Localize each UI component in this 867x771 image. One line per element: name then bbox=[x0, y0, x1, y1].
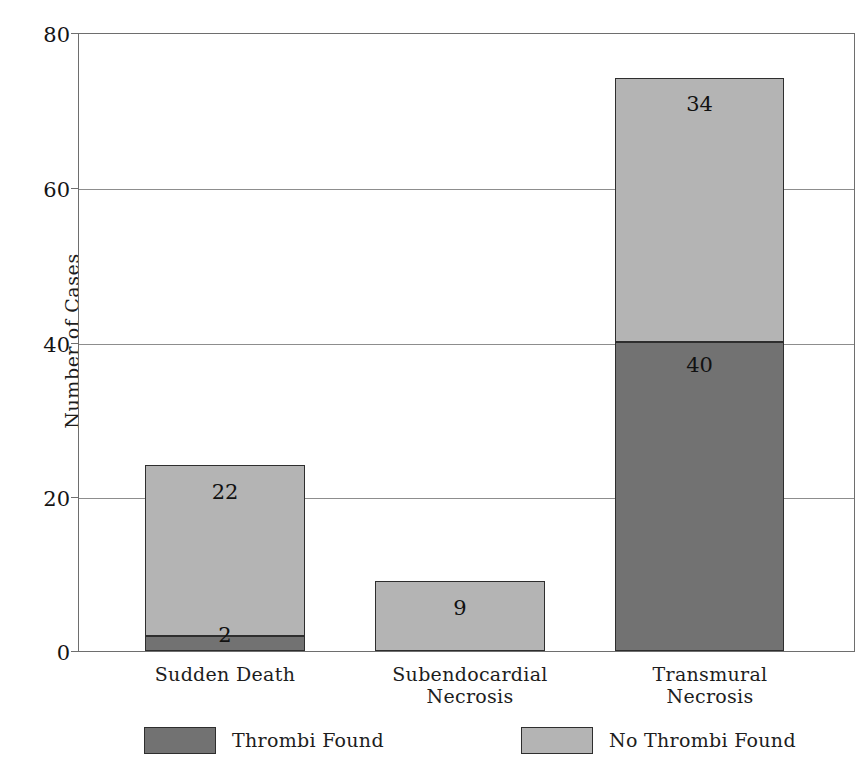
bar-transmural-necrosis[interactable]: 34 40 bbox=[615, 78, 784, 651]
x-category-line-1: Sudden Death bbox=[105, 663, 345, 685]
bar-subendocardial-necrosis[interactable]: 9 bbox=[375, 581, 545, 651]
chart-legend: Thrombi Found No Thrombi Found bbox=[0, 718, 867, 760]
plot-area: 22 2 9 34 40 bbox=[78, 33, 855, 652]
bar-sudden-death[interactable]: 22 2 bbox=[145, 465, 305, 651]
legend-entry-no-thrombi-found[interactable]: No Thrombi Found bbox=[521, 723, 796, 757]
y-tick-mark-60 bbox=[71, 188, 78, 189]
bar-segment-thrombi-found[interactable] bbox=[615, 342, 784, 652]
y-tick-label-60: 60 bbox=[10, 180, 70, 201]
bar-segment-thrombi-found[interactable] bbox=[145, 636, 305, 652]
y-tick-mark-80 bbox=[71, 33, 78, 34]
y-tick-mark-40 bbox=[71, 343, 78, 344]
y-tick-label-40: 40 bbox=[10, 335, 70, 356]
x-category-label-sudden-death: Sudden Death bbox=[105, 663, 345, 685]
y-tick-mark-20 bbox=[71, 497, 78, 498]
y-tick-label-20: 20 bbox=[10, 489, 70, 510]
x-category-label-subendocardial-necrosis: Subendocardial Necrosis bbox=[340, 663, 600, 708]
bar-segment-no-thrombi-found[interactable] bbox=[375, 581, 545, 651]
legend-label-no-thrombi-found: No Thrombi Found bbox=[609, 729, 796, 751]
x-category-line-1: Subendocardial bbox=[340, 663, 600, 685]
x-category-label-transmural-necrosis: Transmural Necrosis bbox=[580, 663, 840, 708]
legend-swatch-thrombi-found bbox=[144, 727, 216, 754]
x-category-line-2: Necrosis bbox=[340, 685, 600, 707]
legend-swatch-no-thrombi-found bbox=[521, 727, 593, 754]
bar-segment-no-thrombi-found[interactable] bbox=[145, 465, 305, 636]
x-category-line-1: Transmural bbox=[580, 663, 840, 685]
stacked-bar-chart: Number of Cases 80 60 40 20 0 22 2 9 34 bbox=[0, 0, 867, 771]
legend-entry-thrombi-found[interactable]: Thrombi Found bbox=[144, 723, 384, 757]
bar-segment-no-thrombi-found[interactable] bbox=[615, 78, 784, 342]
x-category-line-2: Necrosis bbox=[580, 685, 840, 707]
y-tick-label-80: 80 bbox=[10, 25, 70, 46]
y-tick-label-0: 0 bbox=[10, 643, 70, 664]
y-tick-mark-0 bbox=[71, 651, 78, 652]
legend-label-thrombi-found: Thrombi Found bbox=[232, 729, 384, 751]
